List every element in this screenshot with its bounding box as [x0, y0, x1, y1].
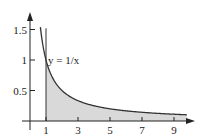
shaded-area	[46, 60, 187, 121]
y-tick-label: 0.5	[13, 85, 27, 97]
y-ticks: 0.511.5	[13, 24, 35, 97]
x-tick-label: 5	[107, 124, 113, 136]
chart: 13579 0.511.5 y = 1/x	[0, 0, 206, 139]
x-tick-label: 1	[43, 124, 49, 136]
y-tick-label: 1	[22, 54, 28, 66]
x-tick-label: 3	[75, 124, 81, 136]
y-axis-arrow-icon	[27, 12, 33, 21]
x-tick-label: 7	[139, 124, 145, 136]
y-tick-label: 1.5	[13, 24, 27, 36]
x-tick-label: 9	[171, 124, 177, 136]
curve-label: y = 1/x	[48, 54, 80, 66]
x-axis-arrow-icon	[186, 118, 195, 124]
